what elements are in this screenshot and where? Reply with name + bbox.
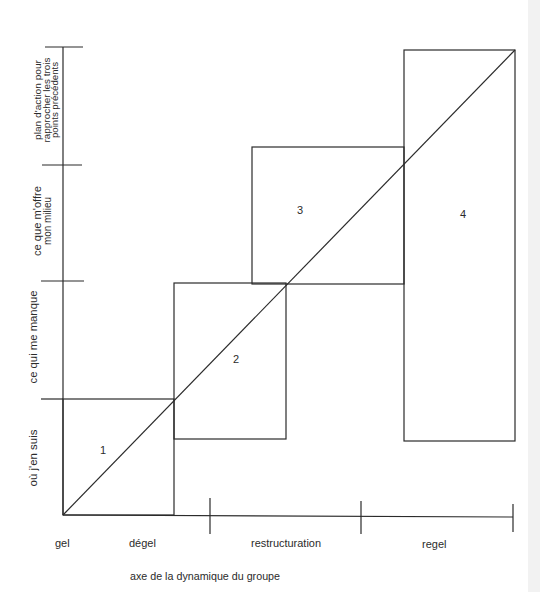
phase-label-regel: regel — [422, 538, 446, 550]
step-number-3: 3 — [297, 204, 303, 216]
step-number-1: 1 — [100, 444, 106, 456]
step-box-4 — [404, 50, 515, 441]
group-dynamics-diagram: 1 2 3 4 où j'en suis ce qui me manque ce… — [0, 0, 540, 592]
stage-label-what-i-lack: ce qui me manque — [27, 290, 39, 383]
stage-label-where-i-am: où j'en suis — [27, 430, 39, 487]
phase-label-restructuration: restructuration — [251, 537, 321, 549]
horizontal-axis-title: axe de la dynamique du groupe — [130, 570, 280, 582]
phase-label-gel: gel — [55, 537, 70, 549]
progression-diagonal — [63, 50, 515, 515]
step-box-3 — [252, 147, 404, 284]
step-number-2: 2 — [233, 353, 239, 365]
phase-label-degel: dégel — [129, 537, 156, 549]
step-number-4: 4 — [460, 208, 466, 220]
stage-label-action-plan-line-3: points précédents — [49, 62, 60, 138]
stage-label-environment-line-2: mon milieu — [41, 197, 53, 245]
step-box-2 — [174, 283, 286, 439]
